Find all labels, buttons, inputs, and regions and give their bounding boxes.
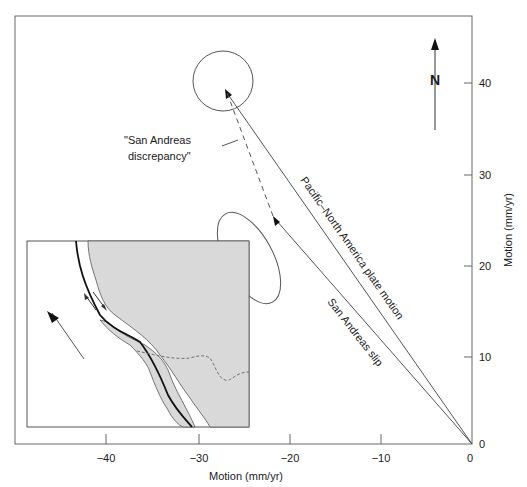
y-tick-label: 40 xyxy=(479,77,491,89)
x-tick-label: −40 xyxy=(97,452,116,464)
discrepancy-leader xyxy=(222,140,238,146)
discrepancy-label-line2: discrepancy" xyxy=(128,150,191,162)
y-tick-label: 10 xyxy=(479,351,491,363)
diagram-canvas: −40 −30 −20 −10 0 Motion (mm/yr) 40 30 2… xyxy=(0,0,527,487)
discrepancy-label-line1: "San Andreas xyxy=(124,134,191,146)
x-tick-label: −30 xyxy=(190,452,209,464)
y-tick-label: 20 xyxy=(479,260,491,272)
x-tick-label: 0 xyxy=(467,452,473,464)
y-tick-label: 30 xyxy=(479,169,491,181)
x-axis-title: Motion (mm/yr) xyxy=(209,470,283,482)
plate-motion-label: Pacific–North America plate motion xyxy=(298,174,406,321)
x-axis-ticks xyxy=(106,434,381,444)
x-axis-tick-labels: −40 −30 −20 −10 0 xyxy=(97,452,473,464)
sa-slip-arrowhead-icon xyxy=(273,216,280,226)
x-tick-label: −20 xyxy=(281,452,300,464)
x-tick-label: −10 xyxy=(372,452,391,464)
error-circle xyxy=(193,51,253,111)
y-axis-tick-labels: 40 30 20 10 0 xyxy=(479,77,491,450)
y-axis-title: Motion (mm/yr) xyxy=(502,193,514,267)
discrepancy-vector xyxy=(226,90,273,216)
y-tick-label: 0 xyxy=(479,438,485,450)
y-axis-ticks xyxy=(464,83,472,357)
plate-motion-vector xyxy=(227,93,472,444)
sa-slip-vector xyxy=(276,220,472,444)
north-label: N xyxy=(430,72,440,88)
inset-map xyxy=(27,241,249,427)
